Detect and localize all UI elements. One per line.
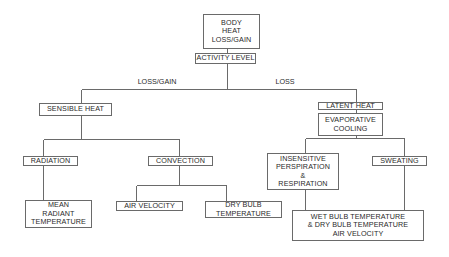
node-sensible-heat: SENSIBLE HEAT: [39, 103, 112, 116]
edge-label-loss-gain: LOSS/GAIN: [138, 78, 177, 86]
node-latent-heat: LATENT HEAT: [318, 102, 383, 110]
node-body-heat-loss-gain: BODY HEAT LOSS/GAIN: [203, 14, 260, 49]
node-air-velocity: AIR VELOCITY: [116, 201, 183, 211]
node-insensitive-perspiration-respiration: INSENSITIVE PERSPIRATION & RESPIRATION: [267, 153, 339, 190]
heat-loss-diagram: LOSS/GAIN LOSS BODY HEAT LOSS/GAIN ACTIV…: [0, 0, 449, 257]
node-sweating: SWEATING: [372, 156, 427, 166]
node-radiation: RADIATION: [23, 156, 78, 166]
node-evaporative-cooling: EVAPORATIVE COOLING: [318, 113, 383, 136]
node-dry-bulb-temperature: DRY BULB TEMPERATURE: [205, 201, 282, 218]
edge-label-loss: LOSS: [275, 78, 294, 86]
node-activity-level: ACTIVITY LEVEL: [195, 53, 256, 64]
node-mean-radiant-temperature: MEAN RADIANT TEMPERATURE: [25, 200, 92, 228]
node-wet-bulb-dry-bulb-air-velocity: WET BULB TEMPERATURE & DRY BULB TEMPERAT…: [292, 210, 424, 241]
node-convection: CONVECTION: [148, 156, 213, 166]
